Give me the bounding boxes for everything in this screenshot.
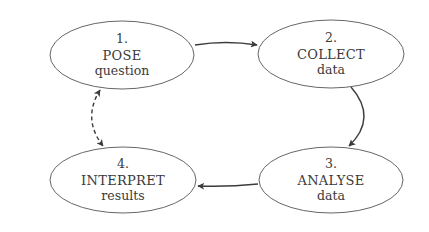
arrow-analyse-to-interpret bbox=[198, 184, 258, 186]
node-analyse: 3. ANALYSE data bbox=[259, 147, 403, 213]
arrow-collect-to-analyse bbox=[349, 87, 364, 146]
node-pose: 1. POSE question bbox=[50, 21, 194, 89]
node-interpret-verb: INTERPRET bbox=[81, 173, 165, 188]
arrow-pose-to-collect bbox=[195, 43, 257, 46]
node-pose-verb: POSE bbox=[102, 48, 141, 63]
node-interpret: 4. INTERPRET results bbox=[50, 147, 196, 213]
node-pose-object: question bbox=[95, 63, 149, 78]
node-interpret-number: 4. bbox=[117, 156, 129, 171]
node-pose-number: 1. bbox=[116, 31, 128, 46]
node-collect-object: data bbox=[317, 62, 345, 77]
statistics-cycle-diagram: 1. POSE question 2. COLLECT data 3. ANAL… bbox=[0, 0, 429, 232]
node-collect-verb: COLLECT bbox=[297, 47, 365, 62]
node-analyse-verb: ANALYSE bbox=[296, 173, 364, 188]
node-collect-number: 2. bbox=[325, 30, 337, 45]
node-interpret-object: results bbox=[101, 188, 144, 203]
node-collect: 2. COLLECT data bbox=[258, 20, 404, 88]
node-analyse-number: 3. bbox=[325, 156, 337, 171]
dashed-arrow-pose-interpret bbox=[92, 90, 103, 146]
node-analyse-object: data bbox=[317, 188, 345, 203]
